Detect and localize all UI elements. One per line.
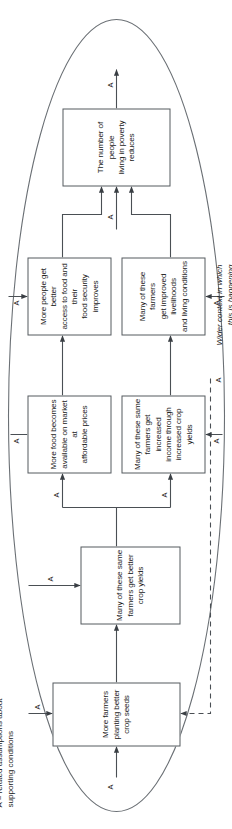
node-more-people-get-better-access-to-food[interactable]: More people get better access to food an… — [27, 257, 111, 335]
node-farmers-get-improved-livelihoods[interactable]: Many of these farmers get improved livel… — [121, 257, 205, 335]
assumption-marker-branch-up: A — [52, 492, 59, 497]
assumption-marker-branch-down: A — [160, 492, 167, 497]
node-label: More people get better access to food an… — [38, 260, 100, 332]
node-label: Many of these same farmers get increased… — [132, 398, 194, 470]
node-label: Many of these same farmers get better cr… — [114, 549, 145, 620]
assumption-marker-yields-top: A — [46, 576, 53, 581]
node-label: The number of people living in poverty r… — [95, 111, 136, 183]
assumption-marker-poverty-right: A — [106, 82, 113, 87]
node-more-farmers-planting-better-crop-seeds[interactable]: More farmers planting better crop seeds — [52, 682, 180, 746]
node-label: More farmers planting better crop seeds — [100, 689, 131, 739]
legend-assumptions: A = related assumptions about supporting… — [0, 577, 15, 807]
node-more-food-available-on-market[interactable]: More food becomes available on market at… — [27, 395, 111, 473]
assumption-marker-income: A — [212, 438, 219, 443]
node-label: More food becomes available on market at… — [48, 398, 89, 470]
assumption-marker-food-market: A — [12, 438, 19, 443]
node-many-farmers-get-better-crop-yields[interactable]: Many of these same farmers get better cr… — [80, 546, 180, 624]
assumption-marker-food-access: A — [12, 300, 19, 305]
label-wider-context: Wider context in which this is happening — [214, 264, 232, 434]
assumption-marker-poverty-left: A — [106, 214, 113, 219]
edge-livelihoods-poverty — [131, 186, 170, 257]
node-number-of-people-living-in-poverty-reduces[interactable]: The number of people living in poverty r… — [62, 108, 170, 186]
node-farmers-get-increased-income[interactable]: Many of these same farmers get increased… — [121, 395, 205, 473]
node-label: Many of these farmers get improved livel… — [137, 260, 189, 332]
theory-of-change-diagram: More farmers planting better crop seeds … — [0, 0, 232, 829]
assumption-marker-seeds-left: A — [106, 784, 113, 789]
edge-food-access-poverty — [62, 186, 101, 257]
assumption-marker-seeds-top: A — [33, 704, 40, 709]
